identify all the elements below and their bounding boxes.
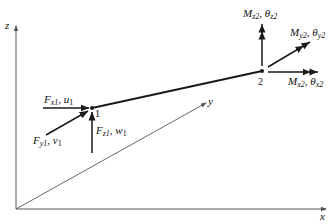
label-fx1-u1: Fx1, u1 <box>44 94 73 107</box>
node-1-label: 1 <box>95 109 100 119</box>
label-fy1-v1: Fy1, v1 <box>33 135 62 148</box>
node-2-dot <box>260 69 264 73</box>
beam-element-diagram <box>0 0 334 224</box>
node-1-dot <box>90 106 94 110</box>
force-fy1-arrow <box>46 111 88 135</box>
label-fz1-w1: Fz1, w1 <box>96 125 127 138</box>
beam-element <box>92 71 262 108</box>
z-axis-label: z <box>5 20 9 31</box>
label-my2-thetay2: My2, θy2 <box>290 27 325 40</box>
y-axis <box>16 103 206 209</box>
y-axis-label: y <box>208 96 213 107</box>
node-2-label: 2 <box>258 77 263 87</box>
label-mx2-thetax2: Mx2, θx2 <box>288 76 323 89</box>
x-axis-label: x <box>320 211 325 222</box>
moment-my2-arrow <box>268 42 310 67</box>
label-mz2-thetaz2: Mz2, θz2 <box>243 8 277 21</box>
